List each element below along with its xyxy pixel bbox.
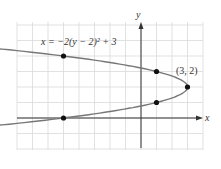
equation-label: x = −2(y − 2)² + 3 xyxy=(40,36,117,48)
data-point xyxy=(185,84,190,89)
x-axis-label: x xyxy=(204,112,210,123)
y-axis-label: y xyxy=(135,9,141,20)
vertex-label: (3, 2) xyxy=(176,65,198,77)
data-point xyxy=(61,53,66,58)
data-point xyxy=(154,69,159,74)
data-point xyxy=(61,115,66,120)
data-point xyxy=(154,100,159,105)
parabola-chart: x = −2(y − 2)² + 3 (3, 2) x y xyxy=(0,0,221,169)
